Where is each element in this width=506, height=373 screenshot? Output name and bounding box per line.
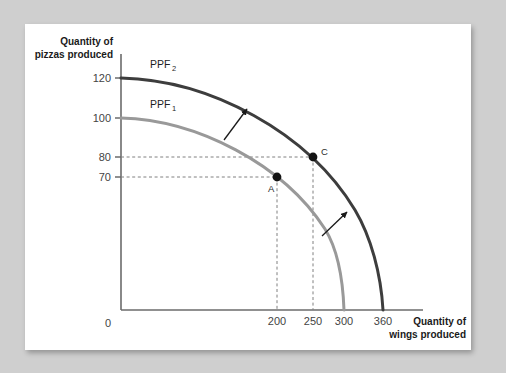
data-point-c	[309, 153, 318, 162]
x-tick-label-300: 300	[335, 315, 353, 327]
shift-arrow-upper	[224, 109, 247, 140]
x-axis-title-line2: wings produced	[388, 329, 466, 340]
y-tick-label-80: 80	[99, 151, 111, 163]
figure-card: PPF 2 PPF 1 A C 120 100 80 70 0 200 250 …	[25, 24, 471, 350]
ppf2-curve	[121, 78, 383, 310]
ppf2-label: PPF	[150, 58, 170, 70]
x-tick-label-200: 200	[268, 315, 286, 327]
x-tick-label-250: 250	[304, 315, 322, 327]
shift-arrow-lower	[322, 212, 347, 236]
y-tick-label-70: 70	[99, 171, 111, 183]
y-tick-label-100: 100	[93, 112, 111, 124]
data-point-a-label: A	[268, 183, 275, 194]
ppf1-label-subscript: 1	[172, 104, 176, 113]
ppf2-label-subscript: 2	[172, 64, 176, 73]
origin-label: 0	[105, 317, 111, 329]
y-axis-title-line2: pizzas produced	[35, 49, 113, 60]
y-tick-label-120: 120	[93, 72, 111, 84]
ppf1-curve	[121, 118, 344, 310]
x-tick-label-360: 360	[374, 315, 392, 327]
data-point-c-label: C	[321, 146, 328, 157]
y-axis-title-line1: Quantity of	[60, 36, 113, 47]
ppf1-label: PPF	[150, 98, 170, 110]
ppf-chart: PPF 2 PPF 1 A C 120 100 80 70 0 200 250 …	[25, 24, 471, 350]
x-axis-title-line1: Quantity of	[413, 316, 466, 327]
data-point-a	[273, 173, 282, 182]
